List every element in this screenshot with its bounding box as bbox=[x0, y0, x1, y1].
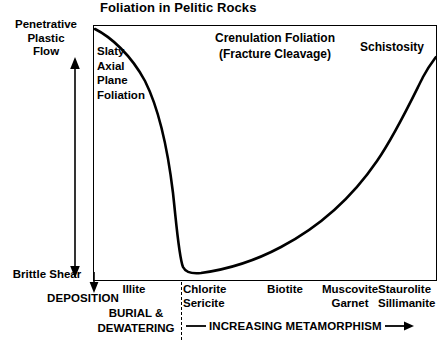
x-axis-metamorphism-label: INCREASING METAMORPHISM bbox=[209, 320, 382, 332]
zone-4-line-2: Sillimanite bbox=[378, 297, 445, 311]
slaty-line-3: Plane bbox=[97, 73, 157, 88]
burial-line-1: BURIAL & bbox=[90, 306, 182, 321]
x-axis-zone-illite: Illite bbox=[96, 283, 172, 297]
zone-1-line-1: Chlorite bbox=[183, 283, 259, 297]
x-axis-zone-biotite: Biotite bbox=[252, 283, 318, 297]
crenulation-line-1: Crenulation Foliation bbox=[170, 30, 380, 46]
y-axis-bottom-label: Brittle Shear bbox=[2, 268, 92, 281]
slaty-line-4: Foliation bbox=[97, 88, 157, 103]
metamorphism-line-tail-icon bbox=[186, 320, 206, 332]
x-axis-zone-staurolite-sillimanite: Staurolite Sillimanite bbox=[378, 283, 445, 310]
x-axis-metamorphism-group: INCREASING METAMORPHISM bbox=[186, 316, 436, 336]
burial-line-2: DEWATERING bbox=[90, 321, 182, 336]
y-axis-top-line-1: Penetrative bbox=[0, 18, 92, 32]
zone-1-line-2: Sericite bbox=[183, 297, 259, 311]
slaty-line-1: Slaty bbox=[97, 44, 157, 59]
slaty-line-2: Axial bbox=[97, 59, 157, 74]
zone-0-line-1: Illite bbox=[96, 283, 172, 297]
annotation-schistosity: Schistosity bbox=[360, 40, 438, 55]
y-axis-top-label: Penetrative Plastic Flow bbox=[0, 18, 92, 59]
zone-4-line-1: Staurolite bbox=[378, 283, 445, 297]
zone-2-line-1: Biotite bbox=[252, 283, 318, 297]
page-title: Foliation in Pelitic Rocks bbox=[100, 0, 320, 16]
annotation-slaty-axial-plane-foliation: Slaty Axial Plane Foliation bbox=[97, 44, 157, 102]
y-axis-top-line-3: Flow bbox=[0, 45, 92, 59]
metamorphism-right-arrow-icon bbox=[385, 320, 415, 332]
y-axis-top-line-2: Plastic bbox=[0, 32, 92, 46]
y-axis-arrow bbox=[58, 55, 92, 280]
annotation-crenulation-foliation: Crenulation Foliation (Fracture Cleavage… bbox=[170, 30, 380, 62]
x-axis-zone-chlorite-sericite: Chlorite Sericite bbox=[183, 283, 259, 310]
x-axis-burial-dewatering-label: BURIAL & DEWATERING bbox=[90, 306, 182, 335]
crenulation-line-2: (Fracture Cleavage) bbox=[170, 46, 380, 62]
